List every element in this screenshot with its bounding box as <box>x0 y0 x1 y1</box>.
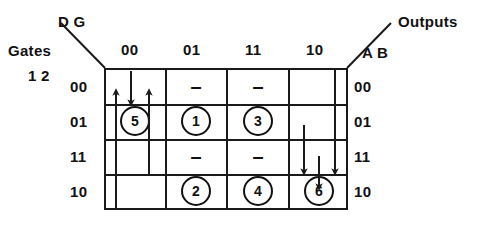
column-header-0: 00 <box>121 42 138 57</box>
row-header-2: 11 <box>70 149 86 164</box>
figure-canvas: D G Gates 1 2 Outputs A B 00 01 11 10 00… <box>0 0 501 230</box>
row-variable-label: 1 2 <box>28 68 50 83</box>
right-row-label-1: 01 <box>354 114 371 129</box>
output-variable-label: A B <box>362 45 388 60</box>
row-header-1: 01 <box>70 114 87 129</box>
column-header-2: 11 <box>245 42 261 57</box>
outputs-label: Outputs <box>398 14 458 29</box>
karnaugh-map-grid <box>104 68 348 210</box>
grid-hline-3 <box>106 174 346 176</box>
grid-hline-2 <box>106 139 346 141</box>
row-header-0: 00 <box>70 79 87 94</box>
column-header-1: 01 <box>183 42 200 57</box>
row-group-label: Gates <box>8 43 51 58</box>
grid-hline-1 <box>106 104 346 106</box>
right-row-label-2: 11 <box>354 149 370 164</box>
row-header-3: 10 <box>70 184 87 199</box>
column-variable-label: D G <box>58 14 86 29</box>
column-header-3: 10 <box>306 42 323 57</box>
right-row-label-0: 00 <box>354 79 371 94</box>
right-row-label-3: 10 <box>354 184 371 199</box>
